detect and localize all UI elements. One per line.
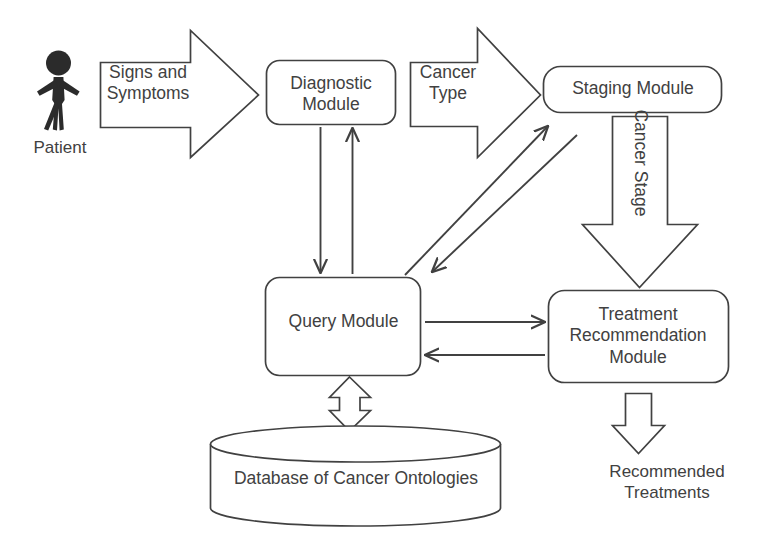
cancer-stage-block-arrow <box>583 117 698 288</box>
staging-module-box <box>544 67 722 113</box>
query-database-double-block-arrow <box>330 377 371 431</box>
query-to-staging-line-arrow <box>405 126 548 275</box>
flowchart-diagram: Patient Signs and Symptoms Diagnostic Mo… <box>0 0 761 554</box>
patient-stick-figure-icon <box>37 51 80 131</box>
signs-and-symptoms-block-arrow <box>101 31 259 158</box>
database-cylinder <box>211 426 501 526</box>
staging-to-query-line-arrow <box>432 135 577 272</box>
diagram-canvas <box>0 0 761 554</box>
diagnostic-module-box <box>267 61 396 125</box>
recommended-treatments-block-arrow <box>613 394 665 454</box>
cancer-type-block-arrow <box>411 29 541 158</box>
treatment-recommendation-module-box <box>549 291 729 383</box>
query-module-box <box>266 278 421 376</box>
